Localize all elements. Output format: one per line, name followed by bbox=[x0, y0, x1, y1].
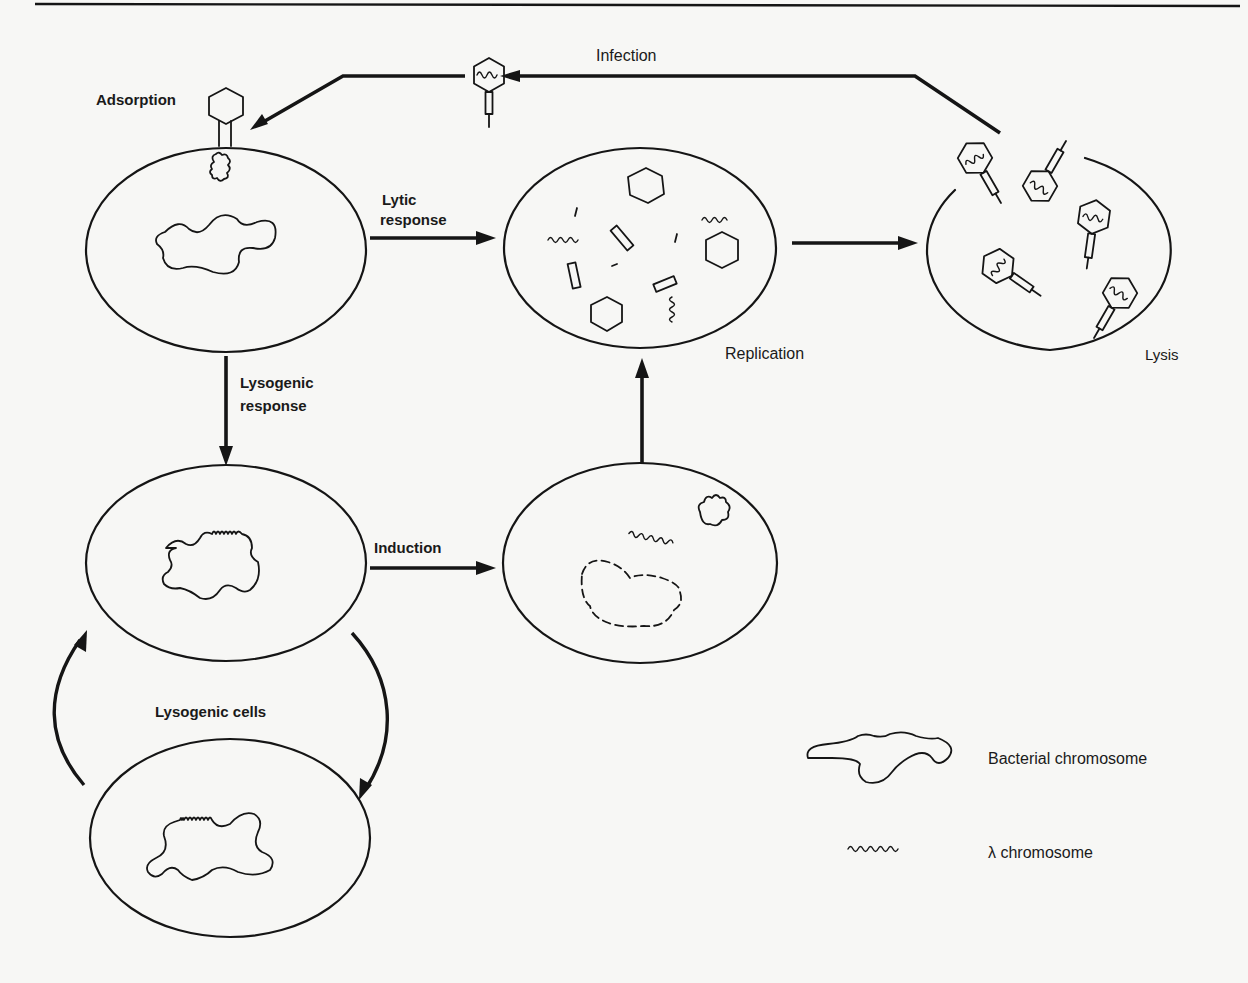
induction-label: Induction bbox=[374, 538, 442, 558]
induction-arrow bbox=[370, 561, 496, 575]
phage-icon bbox=[1019, 133, 1079, 208]
infection-arrow bbox=[250, 70, 1000, 133]
replicating-cell bbox=[504, 148, 776, 348]
legend-bacterial-chromosome-label: Bacterial chromosome bbox=[988, 749, 1147, 769]
induced-cell bbox=[503, 463, 777, 663]
replication-to-lysis-arrow bbox=[792, 236, 918, 250]
phage-icon bbox=[1072, 198, 1111, 271]
lytic-response-label-line1: Lytic bbox=[382, 190, 416, 210]
lysogenic-response-label-line2: response bbox=[240, 396, 307, 416]
lytic-response-arrow bbox=[370, 231, 496, 245]
phage-icon bbox=[975, 244, 1049, 308]
division-arrow-right bbox=[352, 633, 387, 800]
infection-arrowhead bbox=[500, 70, 520, 82]
bacterial-chromosome-icon bbox=[156, 215, 276, 273]
adsorbed-cell bbox=[86, 88, 366, 352]
lysogenic-response-label-line1: Lysogenic bbox=[240, 373, 314, 393]
infection-label: Infection bbox=[596, 46, 656, 66]
top-rule bbox=[35, 4, 1240, 6]
division-arrow-left bbox=[54, 630, 87, 785]
phage-dna-circle-icon bbox=[699, 495, 730, 525]
injected-dna-icon bbox=[210, 153, 230, 181]
legend-lambda-chromosome-icon bbox=[848, 847, 898, 852]
replication-label: Replication bbox=[725, 344, 804, 364]
lysogenic-cells-label: Lysogenic cells bbox=[155, 702, 266, 722]
daughter-lysogen-cell bbox=[90, 739, 370, 937]
adsorption-label: Adsorption bbox=[96, 90, 176, 110]
legend bbox=[807, 732, 951, 851]
legend-lambda-chromosome-label: λ chromosome bbox=[988, 843, 1093, 863]
lysis-label: Lysis bbox=[1145, 345, 1179, 365]
lysogenic-response-arrow bbox=[219, 356, 233, 466]
integrated-chromosome-icon bbox=[163, 532, 259, 600]
lambda-life-cycle-diagram bbox=[0, 0, 1248, 983]
infection-arrowhead-2 bbox=[250, 114, 268, 130]
adsorbed-phage-icon bbox=[209, 88, 243, 146]
lysogen-cell bbox=[86, 465, 366, 661]
lysing-cell bbox=[927, 158, 1171, 350]
integrated-chromosome-icon-2 bbox=[147, 813, 273, 880]
excised-lambda-icon bbox=[628, 531, 673, 545]
induction-to-replication-arrow bbox=[635, 358, 649, 464]
free-phage-icon bbox=[474, 58, 504, 127]
legend-bacterial-chromosome-icon bbox=[807, 732, 951, 782]
phage-icon bbox=[954, 136, 1014, 211]
lytic-response-label-line2: response bbox=[380, 210, 447, 230]
degraded-chromosome-icon bbox=[582, 561, 681, 627]
